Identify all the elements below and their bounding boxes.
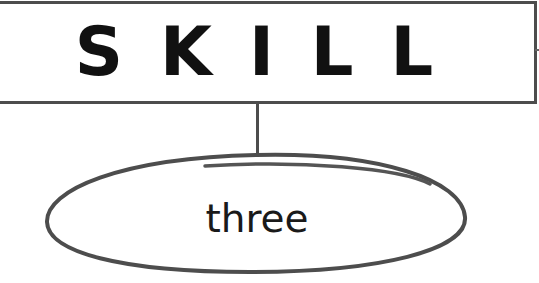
skill-header-box: SKILL [0,1,537,104]
vertical-connector-line [256,101,259,155]
skill-title: SKILL [0,4,534,101]
connector-stub-right [535,49,539,51]
skill-level-label: three [150,192,364,244]
